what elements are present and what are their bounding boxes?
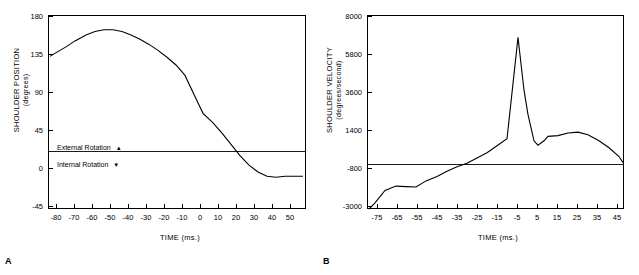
panel-a-ytick-45: 45 <box>13 126 43 135</box>
panel-b-ytick-3600: 3600 <box>328 88 362 97</box>
panel-a-xtickmark-3 <box>110 204 111 209</box>
panel-b-xtickmark-8 <box>537 204 538 209</box>
panel-b-xtickmark-5 <box>477 204 478 209</box>
panel-a-xtickmark-13 <box>290 204 291 209</box>
panel-b-xtickmark-4 <box>457 204 458 209</box>
panel-b-ytick-neg800: -800 <box>328 164 362 173</box>
panel-a-xtickmark-10 <box>236 204 237 209</box>
panel-a-ytick-neg45: -45 <box>13 202 43 211</box>
panel-b-xtickmark-1 <box>397 204 398 209</box>
panel-a-xtickmark-6 <box>164 204 165 209</box>
panel-a-letter: A <box>5 256 12 266</box>
figure-container: SHOULDER POSITION (degrees) 180 135 90 4… <box>0 0 639 275</box>
panel-a-xtickmark-1 <box>74 204 75 209</box>
panel-b-ytick-1400: 1400 <box>328 126 362 135</box>
up-arrow-icon: ▲ <box>116 145 122 151</box>
panel-a-ytick-135: 135 <box>13 50 43 59</box>
panel-b-xtickmark-0 <box>377 204 378 209</box>
panel-b-xtickmark-7 <box>517 204 518 209</box>
panel-a-xtickmark-11 <box>254 204 255 209</box>
panel-a-x-axis-label: TIME (ms.) <box>130 233 230 242</box>
panel-a-xtickmark-4 <box>128 204 129 209</box>
panel-b-ytick-8000: 8000 <box>328 12 362 21</box>
down-arrow-icon: ▼ <box>113 162 119 168</box>
panel-a-annotation-external-rotation: External Rotation ▲ <box>57 144 122 151</box>
panel-b-x-axis-label: TIME (ms.) <box>448 233 548 242</box>
panel-a-xtickmark-2 <box>92 204 93 209</box>
panel-b-xtick-45: 45 <box>603 213 631 222</box>
panel-b-xtickmark-10 <box>577 204 578 209</box>
panel-a-ytick-90: 90 <box>13 88 43 97</box>
panel-b-xtickmark-11 <box>597 204 598 209</box>
panel-a-chart-svg <box>48 15 306 209</box>
panel-a-annotation-internal-rotation: Internal Rotation ▼ <box>57 161 119 168</box>
panel-a-xtickmark-9 <box>218 204 219 209</box>
panel-a-xtickmark-5 <box>146 204 147 209</box>
panel-a-data-line <box>50 30 303 177</box>
panel-b: SHOULDER VELOCITY (degrees/second) 8000 … <box>320 0 639 275</box>
panel-b-xtickmark-2 <box>417 204 418 209</box>
panel-a-xtickmark-0 <box>56 204 57 209</box>
panel-a-ytick-180: 180 <box>13 12 43 21</box>
panel-b-ytick-5800: 5800 <box>328 50 362 59</box>
panel-a-xtickmark-8 <box>200 204 201 209</box>
panel-a-xtickmark-7 <box>182 204 183 209</box>
panel-b-xtickmark-12 <box>617 204 618 209</box>
panel-a-ytick-0: 0 <box>13 164 43 173</box>
panel-b-xtickmark-9 <box>557 204 558 209</box>
panel-b-chart-svg <box>367 15 624 209</box>
panel-b-xtickmark-3 <box>437 204 438 209</box>
panel-a-xtick-50: 50 <box>276 213 304 222</box>
panel-a: SHOULDER POSITION (degrees) 180 135 90 4… <box>0 0 320 275</box>
panel-b-letter: B <box>323 256 330 266</box>
panel-b-data-line <box>369 37 623 209</box>
panel-a-xtickmark-12 <box>272 204 273 209</box>
panel-b-xtickmark-6 <box>497 204 498 209</box>
panel-b-ytick-neg3000: -3000 <box>328 202 362 211</box>
